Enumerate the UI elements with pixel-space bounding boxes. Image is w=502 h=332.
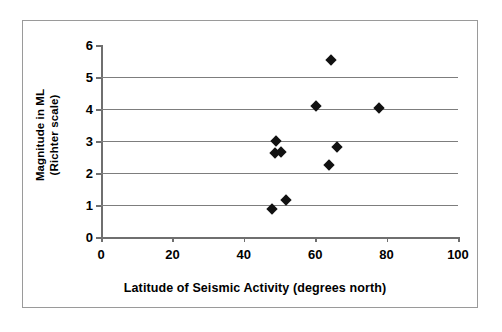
y-tick-label-4: 4 — [71, 102, 93, 117]
data-point — [331, 141, 342, 152]
y-tick-6 — [96, 45, 101, 47]
x-tick-100 — [458, 237, 460, 242]
y-axis-title: Magnitude in ML (Richter scale) — [24, 42, 70, 228]
x-tick-label-20: 20 — [149, 247, 195, 262]
x-tick-label-0: 0 — [78, 247, 124, 262]
data-point — [326, 55, 337, 66]
y-tick-label-1: 1 — [71, 198, 93, 213]
gridline-y-2 — [101, 173, 458, 174]
y-tick-label-6: 6 — [71, 38, 93, 53]
x-tick-60 — [315, 237, 317, 242]
chart-figure: Magnitude in ML (Richter scale) 0123456 … — [0, 0, 502, 332]
x-tick-0 — [101, 237, 103, 242]
x-tick-label-40: 40 — [221, 247, 267, 262]
y-tick-label-0: 0 — [71, 230, 93, 245]
gridline-y-5 — [101, 77, 458, 78]
plot-area — [101, 45, 458, 237]
x-axis-title: Latitude of Seismic Activity (degrees no… — [50, 281, 460, 295]
y-tick-label-3: 3 — [71, 134, 93, 149]
y-axis-title-line-1: Magnitude in ML — [33, 89, 47, 181]
y-tick-3 — [96, 141, 101, 143]
y-tick-2 — [96, 173, 101, 175]
data-point — [270, 135, 281, 146]
data-point — [373, 103, 384, 114]
x-tick-20 — [172, 237, 174, 242]
x-tick-label-100: 100 — [435, 247, 481, 262]
x-tick-label-80: 80 — [364, 247, 410, 262]
x-tick-80 — [387, 237, 389, 242]
y-tick-label-2: 2 — [71, 166, 93, 181]
gridline-y-1 — [101, 205, 458, 206]
y-tick-1 — [96, 205, 101, 207]
x-tick-40 — [244, 237, 246, 242]
gridline-y-4 — [101, 109, 458, 110]
data-point — [323, 159, 334, 170]
y-tick-5 — [96, 77, 101, 79]
x-tick-label-60: 60 — [292, 247, 338, 262]
x-axis-line — [101, 237, 459, 239]
y-tick-label-5: 5 — [71, 70, 93, 85]
y-axis-title-line-2: (Richter scale) — [47, 95, 61, 176]
y-tick-4 — [96, 109, 101, 111]
